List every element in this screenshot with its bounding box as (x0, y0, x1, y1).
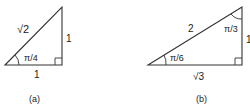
bottom-angle-label-b: π/6 (170, 53, 184, 63)
top-angle-label-b: π/3 (224, 24, 238, 34)
diagram-canvas: √2 1 π/4 1 (a) 2 π/3 1 π/6 √3 (b) (0, 0, 250, 112)
hypotenuse-label-b: 2 (188, 23, 194, 34)
hypotenuse-label-a: √2 (17, 23, 29, 35)
caption-a: (a) (29, 94, 40, 104)
right-angle-marker-a (55, 58, 62, 65)
bottom-angle-arc-b (164, 55, 166, 65)
triangle-b-outline (148, 7, 242, 65)
angle-label-a: π/4 (24, 53, 38, 63)
vertical-side-label-a: 1 (66, 33, 72, 44)
caption-b: (b) (196, 94, 207, 104)
right-angle-marker-b (235, 58, 242, 65)
triangle-b: 2 π/3 1 π/6 √3 (b) (148, 7, 250, 104)
top-angle-arc-b (231, 14, 242, 19)
triangle-a: √2 1 π/4 1 (a) (5, 7, 72, 104)
vertical-side-label-b: 1 (246, 34, 250, 45)
angle-arc-a (15, 55, 19, 65)
horizontal-side-label-a: 1 (34, 69, 40, 80)
horizontal-side-label-b: √3 (193, 71, 204, 82)
